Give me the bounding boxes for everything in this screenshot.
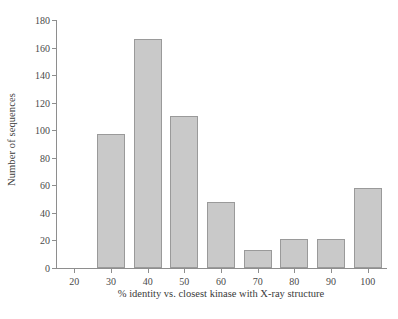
x-tick-label: 30	[106, 276, 116, 287]
y-tick-mark	[52, 213, 56, 214]
y-axis-line	[56, 20, 57, 269]
histogram-figure: Number of sequences 02040608010012014016…	[0, 0, 398, 319]
x-tick-label: 60	[216, 276, 226, 287]
y-tick-mark	[52, 185, 56, 186]
x-tick-label: 40	[143, 276, 153, 287]
bar	[354, 188, 382, 268]
y-tick-mark	[52, 48, 56, 49]
x-tick-mark	[258, 269, 259, 273]
x-tick-mark	[221, 269, 222, 273]
y-tick-mark	[52, 75, 56, 76]
y-tick-mark	[52, 268, 56, 269]
y-tick-label: 20	[40, 235, 50, 246]
x-tick-label: 80	[289, 276, 299, 287]
y-tick-label: 0	[45, 263, 50, 274]
y-axis-title: Number of sequences	[6, 93, 17, 186]
x-tick-mark	[148, 269, 149, 273]
x-axis-title: % identity vs. closest kinase with X-ray…	[56, 288, 386, 299]
y-tick-label: 160	[35, 42, 50, 53]
y-tick-label: 60	[40, 180, 50, 191]
y-tick-label: 40	[40, 207, 50, 218]
bar	[244, 250, 272, 268]
x-tick-label: 20	[69, 276, 79, 287]
y-axis-title-wrap: Number of sequences	[0, 0, 22, 278]
plot-area: 020406080100120140160180 203040506070809…	[56, 20, 386, 268]
y-tick-label: 140	[35, 70, 50, 81]
x-tick-mark	[368, 269, 369, 273]
y-tick-label: 120	[35, 97, 50, 108]
bar	[97, 134, 125, 268]
x-tick-mark	[294, 269, 295, 273]
x-tick-mark	[184, 269, 185, 273]
x-tick-label: 90	[326, 276, 336, 287]
y-tick-label: 180	[35, 15, 50, 26]
bar	[317, 239, 345, 268]
y-tick-mark	[52, 20, 56, 21]
x-tick-label: 50	[179, 276, 189, 287]
y-tick-label: 80	[40, 152, 50, 163]
bar	[280, 239, 308, 268]
x-tick-mark	[331, 269, 332, 273]
x-tick-label: 70	[253, 276, 263, 287]
y-tick-mark	[52, 130, 56, 131]
bar	[170, 116, 198, 268]
x-tick-mark	[74, 269, 75, 273]
x-tick-label: 100	[360, 276, 375, 287]
bar	[207, 202, 235, 268]
x-tick-mark	[111, 269, 112, 273]
y-tick-mark	[52, 240, 56, 241]
y-tick-mark	[52, 103, 56, 104]
y-tick-label: 100	[35, 125, 50, 136]
y-tick-mark	[52, 158, 56, 159]
bar	[134, 39, 162, 268]
